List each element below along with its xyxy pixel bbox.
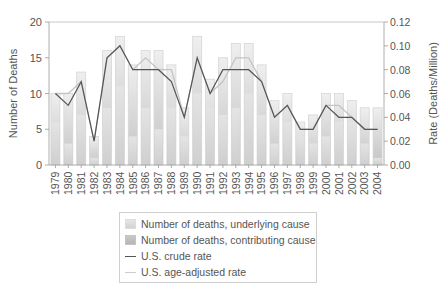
bar-underlying	[167, 108, 175, 165]
x-tick-label: 1994	[243, 171, 255, 195]
x-tick-label: 1993	[230, 171, 242, 195]
crude-line-icon	[125, 256, 136, 257]
x-tick-label: 1997	[281, 171, 293, 195]
combo-chart: 051015200.000.020.040.060.080.100.121979…	[0, 0, 443, 210]
bar-underlying	[270, 144, 278, 165]
legend-item-underlying: Number of deaths, underlying cause	[125, 216, 316, 232]
x-tick-label: 1995	[255, 171, 267, 195]
bar-underlying	[258, 115, 266, 165]
x-tick-label: 1999	[307, 171, 319, 195]
x-tick-label: 1991	[204, 171, 216, 195]
x-tick-label: 1998	[294, 171, 306, 195]
bar-underlying	[206, 108, 214, 165]
bar-underlying	[77, 115, 85, 165]
legend-label: U.S. age-adjusted rate	[141, 266, 246, 278]
bar-underlying	[219, 115, 227, 165]
legend-label: Number of deaths, contributing cause	[141, 234, 316, 246]
bar-underlying	[116, 86, 124, 165]
x-tick-label: 2003	[358, 171, 370, 195]
age-adjusted-line-icon	[125, 272, 136, 273]
bar-underlying	[361, 144, 369, 165]
x-tick-label: 1985	[127, 171, 139, 195]
y-tick-label: 5	[36, 123, 42, 135]
bar-underlying	[51, 122, 59, 165]
legend-item-crude-rate: U.S. crude rate	[125, 248, 316, 264]
x-tick-label: 1982	[88, 171, 100, 195]
bar-underlying	[232, 108, 240, 165]
bar-underlying	[309, 144, 317, 165]
legend-item-contributing: Number of deaths, contributing cause	[125, 232, 316, 248]
bar-underlying	[155, 129, 163, 165]
x-tick-label: 1986	[139, 171, 151, 195]
y2-tick-label: 0.08	[390, 64, 411, 76]
x-tick-label: 1992	[217, 171, 229, 195]
y2-tick-label: 0.04	[390, 111, 411, 123]
y-tick-label: 10	[30, 88, 42, 100]
legend-item-age-adjusted: U.S. age-adjusted rate	[125, 264, 316, 280]
bar-underlying	[142, 108, 150, 165]
underlying-swatch-icon	[125, 219, 136, 229]
y-tick-label: 15	[30, 52, 42, 64]
x-tick-label: 2004	[371, 171, 383, 195]
bar-underlying	[245, 94, 253, 166]
bar-underlying	[180, 136, 188, 165]
x-tick-label: 2002	[346, 171, 358, 195]
y-tick-label: 20	[30, 16, 42, 28]
x-tick-label: 1987	[152, 171, 164, 195]
legend-label: U.S. crude rate	[141, 250, 212, 262]
y2-tick-label: 0.12	[390, 16, 411, 28]
y2-tick-label: 0.10	[390, 40, 411, 52]
bar-contributing	[373, 108, 382, 165]
x-tick-label: 1980	[62, 171, 74, 195]
contributing-swatch-icon	[125, 235, 136, 245]
y2-tick-label: 0.00	[390, 159, 411, 171]
bar-underlying	[64, 144, 72, 165]
x-tick-label: 1979	[49, 171, 61, 195]
x-tick-label: 1989	[178, 171, 190, 195]
bar-underlying	[335, 122, 343, 165]
y2-tick-label: 0.02	[390, 135, 411, 147]
x-tick-label: 1983	[101, 171, 113, 195]
bar-underlying	[296, 136, 304, 165]
x-tick-label: 2001	[333, 171, 345, 195]
bar-underlying	[90, 158, 98, 165]
legend: Number of deaths, underlying cause Numbe…	[119, 212, 317, 283]
y-axis-title: Number of Deaths	[7, 48, 19, 138]
legend-label: Number of deaths, underlying cause	[141, 218, 310, 230]
x-tick-label: 1981	[75, 171, 87, 195]
bar-underlying	[283, 122, 291, 165]
bar-underlying	[129, 136, 137, 165]
y2-axis-title: Rate (Deaths/Million)	[427, 42, 439, 145]
bar-underlying	[322, 136, 330, 165]
bar-underlying	[193, 94, 201, 166]
bar-underlying	[348, 122, 356, 165]
bar-underlying	[103, 108, 111, 165]
x-tick-label: 1988	[165, 171, 177, 195]
y2-tick-label: 0.06	[390, 88, 411, 100]
y-tick-label: 0	[36, 159, 42, 171]
x-tick-label: 2000	[320, 171, 332, 195]
x-tick-label: 1996	[268, 171, 280, 195]
x-tick-label: 1984	[114, 171, 126, 195]
bar-underlying	[374, 158, 382, 165]
x-tick-label: 1990	[191, 171, 203, 195]
